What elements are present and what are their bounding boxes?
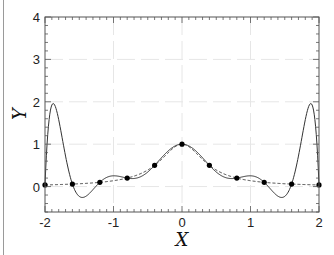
x-tick-label: 2 <box>315 215 322 230</box>
x-tick-label: -1 <box>108 215 120 230</box>
node-marker <box>179 142 184 147</box>
y-tick-label: 3 <box>33 52 40 67</box>
runge-chart: -2-101201234 X Y <box>0 0 334 255</box>
node-marker <box>70 181 75 186</box>
x-tick-label: -2 <box>39 215 51 230</box>
node-marker <box>152 163 157 168</box>
node-marker <box>289 181 294 186</box>
y-tick-label: 2 <box>33 95 40 110</box>
grid-lines <box>45 17 319 212</box>
node-marker <box>97 180 102 185</box>
y-tick-label: 1 <box>33 137 40 152</box>
y-axis-title: Y <box>9 106 30 120</box>
y-tick-label: 4 <box>33 10 40 25</box>
y-tick-label: 0 <box>33 180 40 195</box>
node-marker <box>234 175 239 180</box>
node-marker <box>262 180 267 185</box>
x-tick-label: 1 <box>247 215 254 230</box>
x-tick-label: 0 <box>178 215 185 230</box>
node-marker <box>125 175 130 180</box>
x-axis-title: X <box>174 229 190 250</box>
node-marker <box>207 163 212 168</box>
